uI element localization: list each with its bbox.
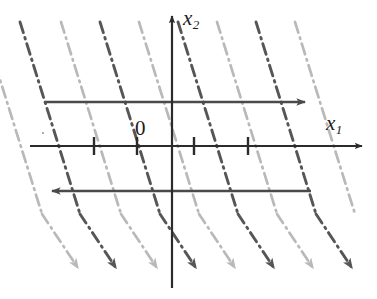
diagram-canvas <box>0 0 377 299</box>
x-axis-label: x1 <box>326 113 342 136</box>
dark-curve-4-right <box>316 214 352 268</box>
light-curve-1 <box>0 22 42 214</box>
light-curve-4-right <box>277 214 313 268</box>
x-axis-label-text: x <box>326 111 335 135</box>
light-curve-1-right <box>42 214 78 268</box>
dark-curve-1-right <box>80 214 116 268</box>
light-curve-2 <box>61 22 121 214</box>
light-curve-3 <box>139 22 199 214</box>
scan-speck <box>42 132 44 134</box>
y-axis-label-subscript: 2 <box>193 17 200 32</box>
light-curve-5 <box>295 22 355 214</box>
y-axis-label-text: x <box>183 6 192 30</box>
dark-curve-3-right <box>238 214 274 268</box>
characteristics-diagram: x2 x1 0 <box>0 0 377 299</box>
x-axis-label-subscript: 1 <box>336 122 343 137</box>
dark-curve-4-left <box>256 22 316 214</box>
light-curve-4 <box>217 22 277 214</box>
dark-curve-2-right <box>160 214 196 268</box>
light-curve-2-right <box>121 214 157 268</box>
origin-label: 0 <box>135 118 146 139</box>
dark-curve-3-left <box>178 22 238 214</box>
light-curve-3-right <box>199 214 235 268</box>
dark-curve-2-left <box>100 22 160 214</box>
light-characteristic-curves-mirror <box>0 22 42 214</box>
y-axis-label: x2 <box>183 8 199 31</box>
